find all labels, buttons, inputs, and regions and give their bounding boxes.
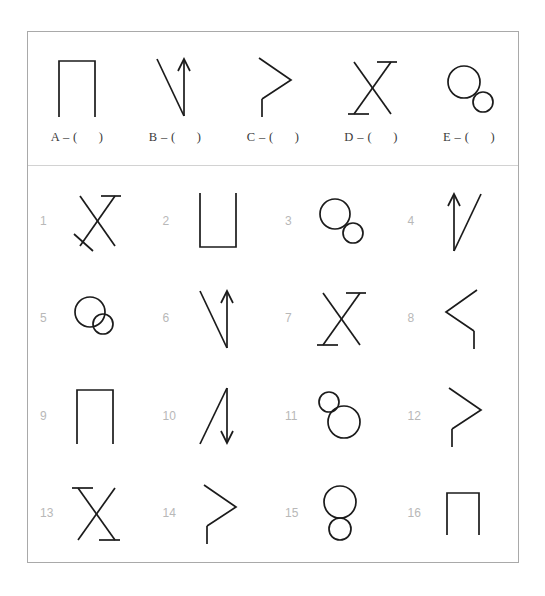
option-number-13: 13 (40, 507, 53, 519)
option-number-5: 5 (40, 312, 47, 324)
section-divider (28, 165, 518, 166)
option-number-8: 8 (408, 312, 415, 324)
option-7[interactable]: 7 (273, 270, 396, 368)
option-10[interactable]: 10 (151, 367, 274, 465)
shape-diagonal-with-down-arrow-right (196, 384, 240, 448)
shape-big-circle-small-circle-overlapping (71, 293, 119, 343)
shape-big-circle-small-circle-lower-right (443, 60, 495, 118)
options-grid: 1 2 3 (28, 172, 518, 562)
shape-big-circle-above-small-circle (319, 484, 361, 542)
option-11[interactable]: 11 (273, 367, 396, 465)
option-number-12: 12 (408, 410, 421, 422)
option-2[interactable]: 2 (151, 172, 274, 270)
option-number-3: 3 (285, 215, 292, 227)
option-6[interactable]: 6 (151, 270, 274, 368)
prompt-figure-d (322, 46, 420, 118)
answer-blank-d[interactable]: D – ( ) (322, 130, 420, 145)
answer-blank-c[interactable]: C – ( ) (224, 130, 322, 145)
option-number-7: 7 (285, 312, 292, 324)
option-number-6: 6 (163, 312, 170, 324)
option-12[interactable]: 12 (396, 367, 519, 465)
option-number-11: 11 (285, 410, 297, 422)
shape-less-than-with-stem (441, 286, 485, 350)
option-4[interactable]: 4 (396, 172, 519, 270)
option-1[interactable]: 1 (28, 172, 151, 270)
answer-blank-a[interactable]: A – ( ) (28, 130, 126, 145)
shape-v-with-up-arrow-right (196, 286, 240, 350)
shape-greater-than-with-stem (251, 54, 295, 118)
shape-square-bracket-cap (72, 386, 118, 446)
option-15[interactable]: 15 (273, 465, 396, 563)
shape-up-arrow-left-with-diagonal-right (441, 189, 485, 253)
option-number-15: 15 (285, 507, 298, 519)
option-14[interactable]: 14 (151, 465, 274, 563)
option-number-1: 1 (40, 215, 47, 227)
shape-greater-than-with-stem (441, 384, 485, 448)
shape-big-circle-small-circle-lower-right (315, 194, 365, 248)
shape-small-circle-upper-left-big-circle-lower-right (315, 389, 365, 443)
prompt-band: A – ( ) B – ( ) C – ( ) D – ( ) E – ( ) (28, 32, 518, 165)
option-13[interactable]: 13 (28, 465, 151, 563)
option-5[interactable]: 5 (28, 270, 151, 368)
shape-square-bracket-cap (54, 56, 100, 118)
option-number-16: 16 (408, 507, 421, 519)
prompt-figure-e (420, 46, 518, 118)
shape-square-bracket-cap-small (442, 489, 484, 537)
prompt-figures-row (28, 46, 518, 118)
prompt-figure-a (28, 46, 126, 118)
shape-x-with-bar-tr-and-tick-bl (68, 190, 122, 252)
prompt-figure-b (126, 46, 224, 118)
option-3[interactable]: 3 (273, 172, 396, 270)
prompt-figure-c (224, 46, 322, 118)
shape-x-with-bars-tr-bl (344, 56, 398, 118)
option-number-4: 4 (408, 215, 415, 227)
option-9[interactable]: 9 (28, 367, 151, 465)
option-number-9: 9 (40, 410, 47, 422)
shape-greater-than-plain (196, 481, 240, 545)
worksheet-frame: A – ( ) B – ( ) C – ( ) D – ( ) E – ( ) … (27, 31, 519, 563)
option-8[interactable]: 8 (396, 270, 519, 368)
shape-u-cup (195, 191, 241, 251)
shape-v-with-up-arrow-right (153, 54, 197, 118)
option-16[interactable]: 16 (396, 465, 519, 563)
option-number-2: 2 (163, 215, 170, 227)
answer-blank-b[interactable]: B – ( ) (126, 130, 224, 145)
option-number-14: 14 (163, 507, 176, 519)
prompt-answer-row: A – ( ) B – ( ) C – ( ) D – ( ) E – ( ) (28, 124, 518, 150)
answer-blank-e[interactable]: E – ( ) (420, 130, 518, 145)
option-number-10: 10 (163, 410, 176, 422)
shape-x-with-bars-tl-br (68, 482, 122, 544)
shape-x-with-bars-tr-bl (313, 287, 367, 349)
